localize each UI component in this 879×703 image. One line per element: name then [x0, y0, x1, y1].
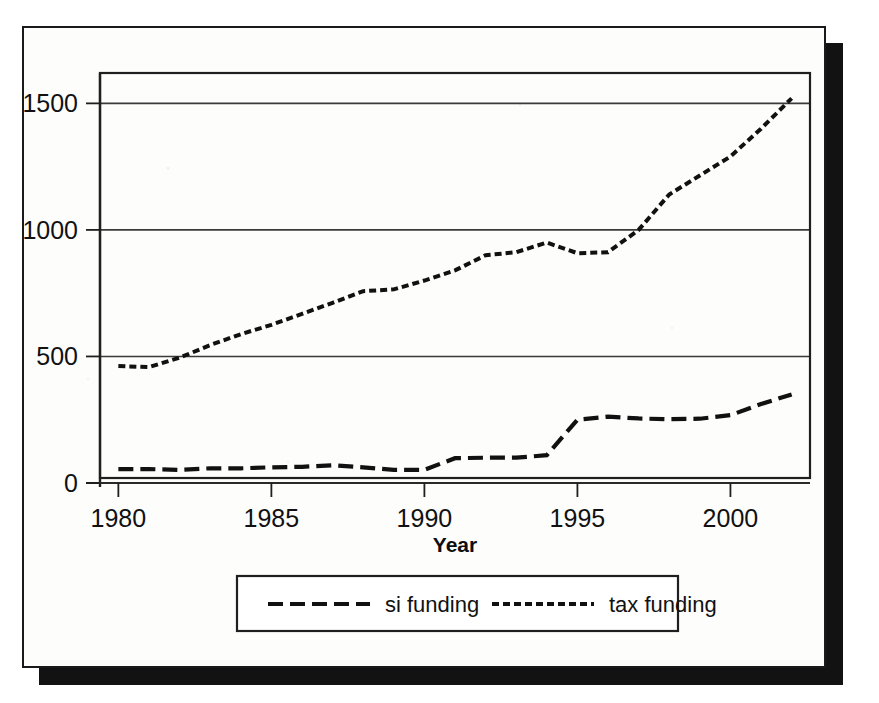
x-axis-tick-label: 2000: [703, 504, 759, 532]
y-axis-tick-label: 1000: [22, 216, 78, 244]
y-gridlines: [100, 103, 810, 356]
chart-screenshot: 050010001500 19801985199019952000 Year s…: [0, 0, 879, 703]
x-axis-ticks: [118, 483, 730, 497]
x-axis-tick-labels: 19801985199019952000: [91, 504, 759, 532]
x-axis-tick-label: 1980: [91, 504, 147, 532]
x-axis-tick-label: 1985: [244, 504, 300, 532]
chart-legend: si funding tax funding: [237, 576, 717, 631]
legend-label-si-funding: si funding: [385, 592, 479, 617]
x-axis-tick-label: 1995: [550, 504, 606, 532]
y-axis-tick-label: 0: [64, 469, 78, 497]
y-axis-tick-labels: 050010001500: [22, 89, 78, 497]
y-axis-tick-label: 500: [36, 342, 78, 370]
series-line-tax-funding: [118, 98, 791, 367]
series-group: [118, 98, 791, 470]
series-line-si-funding: [118, 394, 791, 469]
y-axis-ticks: [86, 103, 100, 483]
x-axis-title: Year: [433, 533, 477, 556]
x-axis-tick-label: 1990: [397, 504, 453, 532]
line-chart: 050010001500 19801985199019952000 Year s…: [0, 0, 879, 703]
legend-label-tax-funding: tax funding: [609, 592, 717, 617]
y-axis-tick-label: 1500: [22, 89, 78, 117]
